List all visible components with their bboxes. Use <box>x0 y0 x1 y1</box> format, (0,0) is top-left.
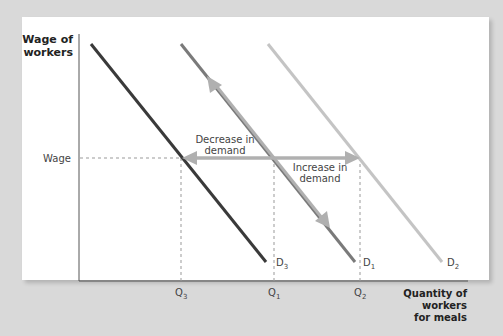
demand-shift-chart: Wage of workers Wage Decrease in demand … <box>0 0 503 336</box>
q2-tick-label: Q2 <box>354 287 366 301</box>
decrease-label-line1: Decrease in <box>195 134 254 145</box>
d2-curve <box>268 44 442 262</box>
wage-label: Wage <box>43 153 71 164</box>
y-axis-title-line2: workers <box>23 46 73 59</box>
q1-tick-label: Q1 <box>268 287 280 301</box>
decrease-label-line2: demand <box>204 145 245 156</box>
x-axis-title-line3: for meals <box>414 312 467 323</box>
x-axis-title-line1: Quantity of <box>403 288 467 299</box>
d2-label: D2 <box>447 257 459 271</box>
d1-label: D1 <box>363 257 375 271</box>
d3-label: D3 <box>276 257 288 271</box>
increase-label-line2: demand <box>299 173 340 184</box>
increase-label-line1: Increase in <box>293 162 348 173</box>
q3-tick-label: Q3 <box>175 287 187 301</box>
x-axis-title-line2: workers <box>422 300 467 311</box>
left-arrow-head-icon <box>182 151 197 165</box>
y-axis-title-line1: Wage of <box>22 33 73 46</box>
